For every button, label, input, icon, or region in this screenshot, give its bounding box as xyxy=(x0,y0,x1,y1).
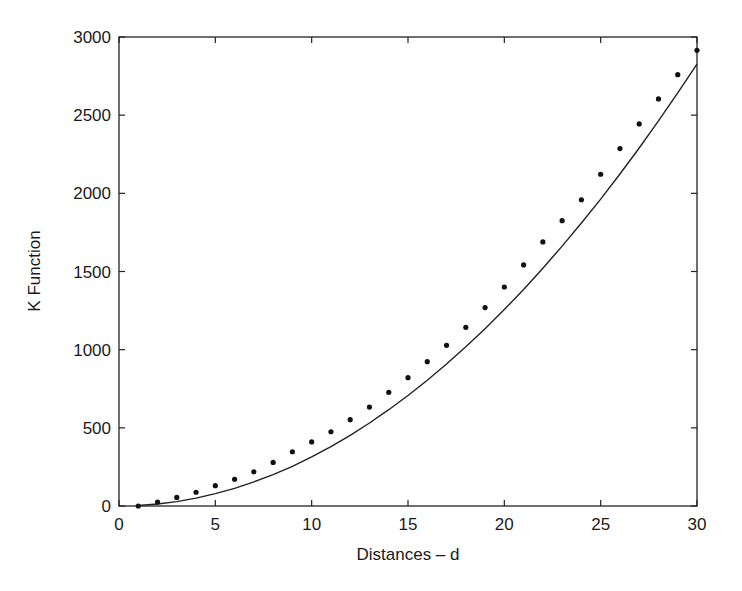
data-point xyxy=(193,490,198,495)
data-point xyxy=(675,72,680,77)
data-point xyxy=(425,359,430,364)
y-tick-label: 3000 xyxy=(73,28,111,47)
data-point xyxy=(579,197,584,202)
data-point xyxy=(251,469,256,474)
data-point xyxy=(213,483,218,488)
y-tick-label: 2000 xyxy=(73,184,111,203)
data-point xyxy=(463,325,468,330)
observed-k-points xyxy=(136,48,700,509)
data-point xyxy=(155,499,160,504)
data-point xyxy=(271,460,276,465)
theoretical-k-line xyxy=(138,64,697,505)
data-point xyxy=(136,503,141,508)
data-point xyxy=(540,239,545,244)
data-point xyxy=(502,284,507,289)
plot-area: 051015202530 050010001500200025003000 xyxy=(73,28,706,534)
data-point xyxy=(444,343,449,348)
x-tick-label: 10 xyxy=(302,515,321,534)
y-tick-label: 1500 xyxy=(73,263,111,282)
data-point xyxy=(232,477,237,482)
data-point xyxy=(656,96,661,101)
data-point xyxy=(637,121,642,126)
y-axis-title: K Function xyxy=(25,230,44,311)
y-tick-label: 1000 xyxy=(73,341,111,360)
data-point xyxy=(174,495,179,500)
x-tick-label: 0 xyxy=(114,515,123,534)
y-axis-ticks: 050010001500200025003000 xyxy=(73,28,697,516)
y-tick-label: 500 xyxy=(83,419,111,438)
k-function-chart: 051015202530 050010001500200025003000 Di… xyxy=(0,0,742,591)
data-point xyxy=(348,417,353,422)
x-axis-title: Distances – d xyxy=(357,545,460,564)
data-point xyxy=(386,390,391,395)
x-tick-label: 30 xyxy=(688,515,707,534)
x-tick-label: 5 xyxy=(211,515,220,534)
y-tick-label: 2500 xyxy=(73,106,111,125)
x-tick-label: 15 xyxy=(399,515,418,534)
data-point xyxy=(405,375,410,380)
data-point xyxy=(309,439,314,444)
data-point xyxy=(482,305,487,310)
data-point xyxy=(290,449,295,454)
data-point xyxy=(598,172,603,177)
data-point xyxy=(367,404,372,409)
data-point xyxy=(617,146,622,151)
data-point xyxy=(328,429,333,434)
axes-frame xyxy=(119,37,697,506)
x-tick-label: 25 xyxy=(591,515,610,534)
data-point xyxy=(694,48,699,53)
data-point xyxy=(521,262,526,267)
y-tick-label: 0 xyxy=(102,497,111,516)
data-point xyxy=(560,218,565,223)
x-tick-label: 20 xyxy=(495,515,514,534)
x-axis-ticks: 051015202530 xyxy=(114,37,706,534)
